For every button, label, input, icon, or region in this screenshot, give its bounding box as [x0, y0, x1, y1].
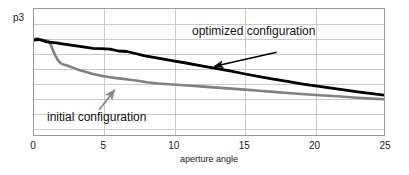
x-tick-label: 5 [101, 140, 107, 151]
annotation-label-initial: initial configuration [47, 111, 146, 124]
x-tick-label: 15 [239, 140, 250, 151]
x-tick-label: 0 [30, 140, 36, 151]
chart-figure: p3 optimized configuration initial confi… [0, 0, 409, 175]
x-tick-label: 25 [379, 140, 390, 151]
x-tick-label: 10 [168, 140, 179, 151]
x-axis-label: aperture angle [180, 154, 238, 164]
y-axis-label: p3 [13, 12, 24, 24]
annotation-label-optimized: optimized configuration [192, 25, 315, 38]
x-tick-label: 20 [309, 140, 320, 151]
